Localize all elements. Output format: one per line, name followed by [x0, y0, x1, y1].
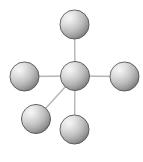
node-left[interactable]: [10, 62, 39, 91]
node-hub[interactable]: [61, 62, 90, 91]
node-graph-diagram: [0, 0, 143, 162]
node-top[interactable]: [60, 10, 89, 39]
node-bottom[interactable]: [60, 115, 89, 144]
node-layer: [10, 10, 139, 144]
graph-canvas: [0, 0, 143, 162]
node-right[interactable]: [110, 62, 139, 91]
node-bottom-left[interactable]: [22, 105, 51, 134]
